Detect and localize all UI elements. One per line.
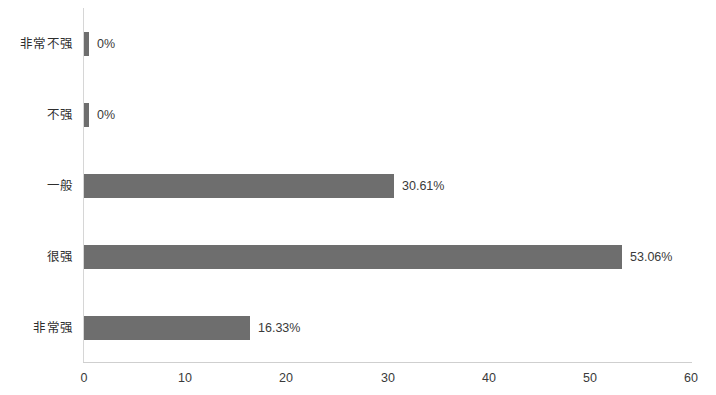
bar-chart: 非常不强 0% 不强 0% 一般 30.61% 很强 53.06% 非常强 16… — [0, 0, 716, 395]
x-tick-label: 60 — [671, 371, 711, 386]
bar-segment — [84, 316, 250, 340]
bar-segment — [84, 174, 394, 198]
bar-segment — [84, 32, 89, 56]
bar-segment — [84, 245, 622, 269]
x-tick-label: 10 — [165, 371, 205, 386]
chart-row: 一般 30.61% — [0, 156, 716, 227]
x-tick-label: 0 — [64, 371, 104, 386]
category-label: 非常不强 — [7, 37, 73, 51]
bar-value-label: 53.06% — [630, 250, 672, 264]
category-label: 不强 — [7, 108, 73, 122]
category-label: 很强 — [7, 250, 73, 264]
category-label: 非常强 — [7, 321, 73, 335]
chart-row: 非常不强 0% — [0, 14, 716, 85]
x-tick-label: 50 — [570, 371, 610, 386]
bar-value-label: 0% — [97, 37, 115, 51]
chart-row: 不强 0% — [0, 85, 716, 156]
x-tick-label: 20 — [266, 371, 306, 386]
bar-segment — [84, 103, 89, 127]
chart-row: 非常强 16.33% — [0, 298, 716, 369]
bar-value-label: 30.61% — [402, 179, 444, 193]
chart-row: 很强 53.06% — [0, 227, 716, 298]
bar-value-label: 16.33% — [258, 321, 300, 335]
x-tick-label: 30 — [368, 371, 408, 386]
bar-value-label: 0% — [97, 108, 115, 122]
category-label: 一般 — [7, 179, 73, 193]
x-tick-label: 40 — [469, 371, 509, 386]
